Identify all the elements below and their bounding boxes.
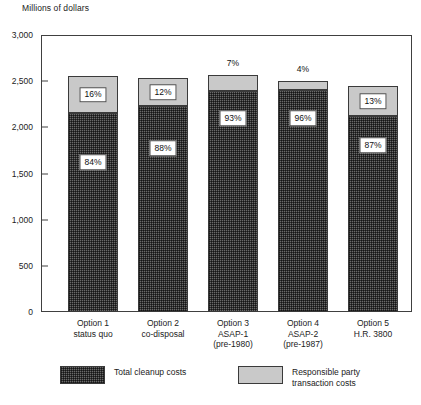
- x-axis-label-line: Option 4: [283, 318, 323, 329]
- bar-segment-total-cleanup: [68, 113, 118, 312]
- x-axis-label: Option 3ASAP-1(pre-1980): [213, 318, 253, 350]
- x-axis-label-line: (pre-1980): [213, 339, 253, 350]
- legend-label-total-cleanup: Total cleanup costs: [114, 366, 186, 378]
- y-tick-mark: [41, 127, 48, 128]
- y-tick-mark: [41, 219, 48, 220]
- x-axis-label-line: H.R. 3800: [354, 329, 392, 340]
- legend-item-transaction-costs: Responsible party transaction costs: [238, 366, 360, 388]
- bar-label-transaction-costs: 4%: [297, 65, 309, 74]
- bar-label-transaction-costs: 7%: [227, 58, 239, 67]
- bar-segment-transaction-costs: [278, 81, 328, 90]
- bar-label-transaction-costs: 13%: [359, 93, 386, 109]
- bar-label-transaction-costs: 12%: [149, 84, 176, 100]
- y-tick-mark: [41, 173, 48, 174]
- bar-label-total-cleanup: 84%: [79, 154, 106, 170]
- x-axis-label: Option 1status quo: [73, 318, 112, 339]
- x-axis-label-line: ASAP-2: [283, 329, 323, 340]
- bar-label-total-cleanup: 88%: [149, 140, 176, 156]
- x-axis-label-line: status quo: [73, 329, 112, 340]
- bar-label-total-cleanup: 87%: [359, 137, 386, 153]
- x-axis-label: Option 4ASAP-2(pre-1987): [283, 318, 323, 350]
- bar-segment-transaction-costs: [208, 75, 258, 92]
- x-axis-label-line: Option 5: [354, 318, 392, 329]
- x-axis-label-line: ASAP-1: [213, 329, 253, 340]
- stacked-bar-chart: Millions of dollars 3,0002,5002,0001,500…: [0, 0, 421, 405]
- legend-label-transaction-costs: Responsible party transaction costs: [292, 366, 360, 388]
- legend-swatch-light-icon: [238, 366, 283, 384]
- x-axis-label: Option 5H.R. 3800: [354, 318, 392, 339]
- y-tick-mark: [41, 81, 48, 82]
- bar-group: [348, 86, 398, 312]
- bar-group: [68, 76, 118, 312]
- bars-layer: 84%16%88%12%93%7%96%4%87%13%: [0, 0, 421, 405]
- bar-label-total-cleanup: 96%: [289, 110, 316, 126]
- bar-label-transaction-costs: 16%: [79, 87, 106, 103]
- x-axis-label-line: Option 1: [73, 318, 112, 329]
- chart-legend: Total cleanup costs Responsible party tr…: [0, 362, 421, 402]
- x-axis-label-line: (pre-1987): [283, 339, 323, 350]
- bar-label-total-cleanup: 93%: [219, 110, 246, 126]
- bar-group: [138, 78, 188, 312]
- x-axis-label-line: Option 2: [142, 318, 185, 329]
- y-tick-mark: [41, 265, 48, 266]
- legend-swatch-dark-icon: [60, 366, 105, 384]
- x-axis-label-line: Option 3: [213, 318, 253, 329]
- x-axis-label: Option 2co-disposal: [142, 318, 185, 339]
- bar-segment-total-cleanup: [138, 106, 188, 312]
- x-axis-label-line: co-disposal: [142, 329, 185, 340]
- legend-item-total-cleanup: Total cleanup costs: [60, 366, 186, 384]
